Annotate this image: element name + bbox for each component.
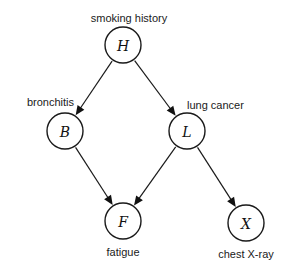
bayesian-network-diagram: HBLFX smoking historybronchitislung canc…: [0, 0, 296, 272]
node-label-l: lung cancer: [187, 99, 244, 111]
node-f[interactable]: F: [105, 203, 141, 239]
node-label-b: bronchitis: [27, 96, 75, 108]
node-label-x: chest X-ray: [218, 248, 274, 260]
edge-l-to-f: [134, 147, 176, 206]
edge-b-to-f: [76, 147, 113, 205]
node-l[interactable]: L: [169, 113, 205, 149]
node-label-h: smoking history: [91, 12, 168, 24]
node-letter-b: B: [59, 124, 70, 140]
node-b[interactable]: B: [47, 113, 83, 149]
edge-h-to-b: [76, 61, 112, 115]
edge-l-to-x: [198, 147, 236, 207]
node-h[interactable]: H: [105, 27, 141, 63]
arrowhead-icon: [167, 106, 176, 116]
arrowhead-icon: [134, 195, 143, 205]
edge-h-to-l: [135, 61, 176, 116]
arrowhead-icon: [227, 197, 236, 207]
edges-layer: [76, 61, 236, 207]
node-x[interactable]: X: [228, 205, 264, 241]
nodes-layer: HBLFX: [47, 27, 264, 241]
node-letter-f: F: [117, 214, 129, 230]
arrowhead-icon: [104, 195, 113, 205]
node-letter-h: H: [116, 38, 130, 54]
arrowhead-icon: [76, 105, 85, 115]
node-letter-l: L: [181, 124, 191, 140]
node-label-f: fatigue: [106, 246, 139, 258]
node-letter-x: X: [240, 216, 252, 232]
graph-canvas: HBLFX smoking historybronchitislung canc…: [0, 0, 296, 272]
